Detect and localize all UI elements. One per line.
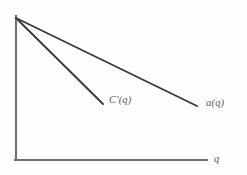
marginal-cost-curve-label: C'(q) bbox=[109, 95, 132, 106]
x-axis-label: q bbox=[214, 154, 219, 165]
figure-canvas bbox=[0, 0, 247, 175]
marginal-cost-curve-line bbox=[16, 18, 103, 104]
demand-curve-label: a(q) bbox=[206, 98, 224, 109]
demand-curve-line bbox=[16, 18, 197, 106]
economics-line-figure: C'(q) a(q) q bbox=[0, 0, 247, 175]
